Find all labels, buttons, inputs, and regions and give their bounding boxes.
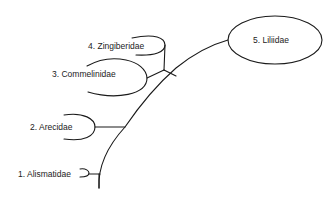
alismatidae-balloon	[80, 169, 89, 177]
commelinidae-label: 3. Commelinidae	[52, 69, 116, 79]
zingiberidae-label: 4. Zingiberidae	[88, 41, 145, 51]
diagram-svg: 1. Alismatidae 2. Arecidae 3. Commelinid…	[0, 0, 335, 197]
phylogeny-diagram: 1. Alismatidae 2. Arecidae 3. Commelinid…	[0, 0, 335, 197]
liliidae-label: 5. Liliidae	[253, 35, 289, 45]
commelinidae-branch	[147, 70, 164, 78]
main-trunk	[99, 40, 228, 188]
alismatidae-label: 1. Alismatidae	[18, 169, 71, 179]
arecidae-label: 2. Arecidae	[30, 122, 73, 132]
commelinid-zingiberid-junction	[164, 70, 176, 76]
